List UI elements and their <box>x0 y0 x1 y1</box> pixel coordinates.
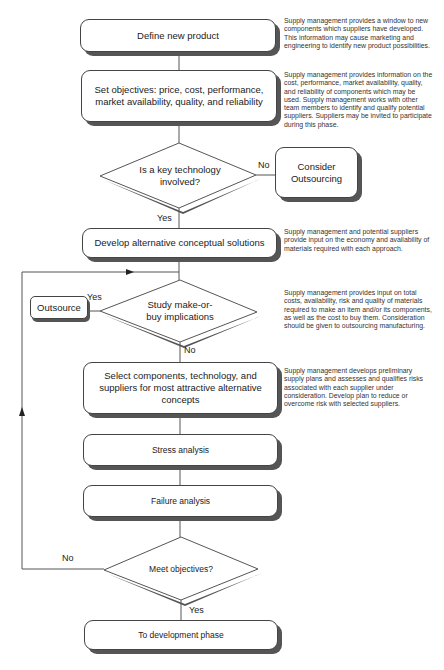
step-label: To development phase <box>138 629 224 641</box>
label-yes-meet-objectives: Yes <box>189 605 204 615</box>
label-yes-key-tech: Yes <box>157 213 172 223</box>
step-to-development-phase: To development phase <box>84 620 278 650</box>
step-consider-outsourcing: Consider Outsourcing <box>275 147 358 198</box>
label-no-make-or-buy: No <box>184 345 196 355</box>
step-develop-solutions: Develop alternative conceptual solutions <box>82 228 277 258</box>
step-set-objectives: Set objectives: price, cost, performance… <box>81 70 277 122</box>
note-define: Supply management provides a window to n… <box>284 17 434 50</box>
step-label: Outsource <box>37 302 81 314</box>
decision-key-technology-label: Is a key technology involved? <box>130 160 230 192</box>
step-label: Define new product <box>137 30 219 42</box>
note-make-or-buy: Supply management provides input on tota… <box>284 289 434 330</box>
label-no-key-tech: No <box>258 160 270 170</box>
step-label: Set objectives: price, cost, performance… <box>88 84 270 108</box>
note-select: Supply management develops preliminary s… <box>284 367 434 408</box>
step-select-components: Select components, technology, and suppl… <box>83 362 278 414</box>
step-outsource: Outsource <box>30 296 88 319</box>
decision-meet-objectives-label: Meet objectives? <box>131 562 231 576</box>
label-yes-outsource: Yes <box>87 292 102 302</box>
step-stress-analysis: Stress analysis <box>83 434 278 466</box>
label-no-meet-objectives: No <box>62 553 74 563</box>
note-objectives: Supply management provides information o… <box>284 71 434 129</box>
note-develop: Supply management and potential supplier… <box>284 228 434 253</box>
step-failure-analysis: Failure analysis <box>83 485 278 517</box>
step-label: Stress analysis <box>152 444 209 456</box>
step-label: Develop alternative conceptual solutions <box>94 237 264 249</box>
step-label: Failure analysis <box>151 495 210 507</box>
step-label: Select components, technology, and suppl… <box>90 370 271 406</box>
decision-make-or-buy-label: Study make-or-buy implications <box>140 295 220 327</box>
step-label: Consider Outsourcing <box>288 161 345 185</box>
step-define-new-product: Define new product <box>80 19 276 52</box>
